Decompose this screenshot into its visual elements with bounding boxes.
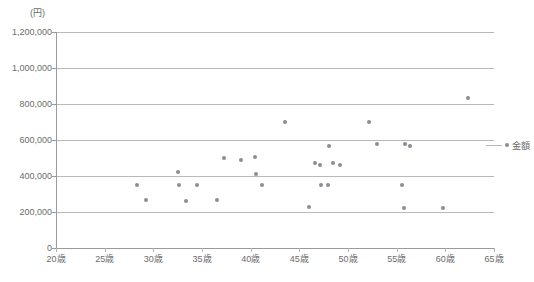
scatter-point (402, 206, 406, 210)
scatter-point (176, 170, 180, 174)
scatter-point (400, 183, 404, 187)
y-axis-tick-label: 1,000,000 (12, 63, 52, 73)
scatter-point (144, 198, 148, 202)
y-axis-tick-label: 200,000 (19, 207, 52, 217)
x-axis-tick-label: 50歳 (338, 252, 357, 265)
legend: 金額 (486, 139, 530, 152)
scatter-point (260, 183, 264, 187)
gridline (56, 68, 494, 69)
scatter-point (135, 183, 139, 187)
scatter-point (338, 163, 342, 167)
gridline (56, 212, 494, 213)
legend-label: 金額 (512, 139, 530, 152)
scatter-point (313, 161, 317, 165)
gridline (56, 176, 494, 177)
y-axis-tick-label: 1,200,000 (12, 27, 52, 37)
scatter-point (319, 183, 323, 187)
scatter-point (408, 144, 412, 148)
scatter-point (307, 205, 311, 209)
scatter-point (215, 198, 219, 202)
scatter-point (466, 96, 470, 100)
y-axis-tick-label: 400,000 (19, 171, 52, 181)
x-axis-line (56, 248, 494, 249)
y-axis-line (56, 32, 57, 248)
gridline (56, 32, 494, 33)
scatter-point (367, 120, 371, 124)
legend-marker-icon (505, 143, 509, 147)
x-axis-tick-label: 40歳 (241, 252, 260, 265)
scatter-point (331, 161, 335, 165)
scatter-chart: (円) 0200,000400,000600,000800,0001,000,0… (0, 0, 534, 282)
x-axis-tick-label: 20歳 (46, 252, 65, 265)
scatter-point (239, 158, 243, 162)
scatter-point (195, 183, 199, 187)
y-axis-tick-label: 600,000 (19, 135, 52, 145)
x-axis-tick-label: 60歳 (436, 252, 455, 265)
scatter-point (253, 155, 257, 159)
scatter-point (375, 142, 379, 146)
scatter-point (441, 206, 445, 210)
scatter-point (326, 183, 330, 187)
x-axis-tick-label: 30歳 (144, 252, 163, 265)
x-axis-tick-label: 45歳 (290, 252, 309, 265)
scatter-point (403, 142, 407, 146)
x-axis-tick-label: 35歳 (192, 252, 211, 265)
scatter-point (327, 144, 331, 148)
gridline (56, 104, 494, 105)
scatter-point (177, 183, 181, 187)
scatter-point (222, 156, 226, 160)
legend-line-icon (486, 145, 502, 146)
x-axis-tick-label: 25歳 (95, 252, 114, 265)
x-axis-tick-label: 55歳 (387, 252, 406, 265)
scatter-point (318, 163, 322, 167)
y-axis-tick-label: 800,000 (19, 99, 52, 109)
y-axis-tick-labels: 0200,000400,000600,000800,0001,000,0001,… (0, 0, 52, 282)
x-axis-tick-label: 65歳 (484, 252, 503, 265)
scatter-point (254, 172, 258, 176)
scatter-point (184, 199, 188, 203)
scatter-point (283, 120, 287, 124)
gridline (56, 140, 494, 141)
